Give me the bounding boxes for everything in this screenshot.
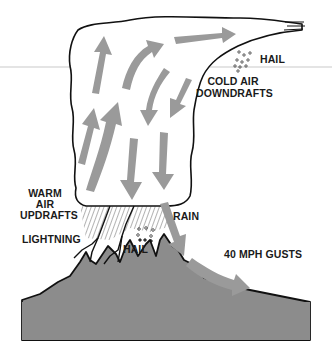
label-hail-bottom: HAIL (123, 244, 148, 255)
label-cold-air-line2: DOWNDRAFTS (196, 88, 270, 99)
label-warm-air-line3: UPDRAFTS (20, 210, 78, 221)
label-hail-top: HAIL (260, 54, 285, 65)
hail-dots-top (234, 51, 251, 72)
label-rain: RAIN (173, 211, 199, 222)
label-cold-air-line1: COLD AIR (196, 76, 270, 87)
label-lightning: LIGHTNING (22, 234, 81, 245)
thunderstorm-diagram: HAIL COLD AIR DOWNDRAFTS WARM AIR UPDRAF… (0, 0, 332, 353)
label-gusts: 40 MPH GUSTS (224, 249, 302, 260)
